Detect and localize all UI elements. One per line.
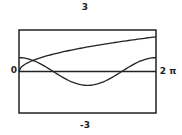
function-plot: 3 -3 0 2 π: [0, 0, 182, 135]
y-max-label: 3: [82, 2, 88, 12]
x-max-label: 2 π: [160, 66, 177, 76]
x-min-label: 0: [11, 65, 17, 75]
series-line-sqrt: [19, 37, 156, 72]
y-min-label: -3: [80, 120, 90, 130]
series-layer: [19, 37, 156, 86]
